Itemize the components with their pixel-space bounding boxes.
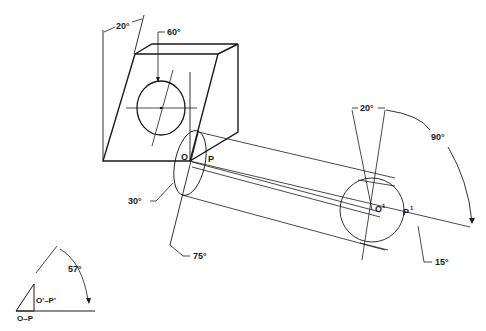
label-true-length: O'–P' — [36, 296, 56, 305]
label-75: 75° — [193, 251, 207, 261]
line-20-left — [352, 110, 372, 210]
axis-75 — [170, 133, 198, 245]
diagram-canvas: 20° 60° 20° 90° 15° 30° 75° O P O — [0, 0, 486, 331]
label-60: 60° — [167, 27, 181, 37]
leader-75 — [170, 245, 190, 256]
label-15: 15° — [435, 257, 449, 267]
label-57: 57° — [68, 264, 82, 274]
label-30: 30° — [128, 196, 142, 206]
label-p: P — [208, 154, 214, 164]
label-p1: P — [403, 207, 409, 217]
label-o: O — [181, 152, 188, 162]
label-o1-sup: 1 — [382, 203, 386, 209]
label-20-right: 20° — [360, 103, 374, 113]
label-base: O–P — [17, 314, 34, 323]
label-90: 90° — [431, 132, 445, 142]
leader-30 — [150, 183, 173, 201]
label-p1-sup: 1 — [410, 205, 414, 211]
line-20-right — [362, 110, 385, 260]
dimension-20-right: 20° — [352, 103, 385, 113]
hole — [126, 70, 197, 146]
block — [103, 44, 238, 161]
leader-15 — [418, 226, 432, 262]
arc-90-lower — [448, 147, 472, 222]
cylinder-lines — [182, 132, 470, 250]
label-20-top: 20° — [116, 21, 130, 31]
rotation-drawing: 20° 60° 20° 90° 15° 30° 75° O P O — [0, 0, 486, 331]
true-length-triangle: 57° O'–P' O–P — [16, 246, 95, 323]
label-o1: O — [375, 204, 382, 214]
arc-90-upper — [386, 110, 430, 130]
